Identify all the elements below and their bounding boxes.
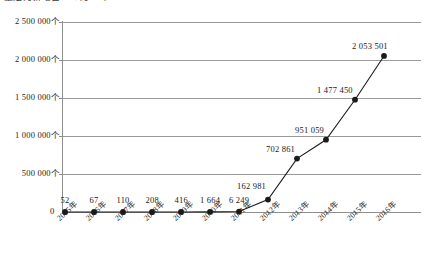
data-point-label: 702 861 [266,145,295,154]
data-point-marker [265,197,271,203]
data-point-marker [149,209,155,215]
data-point-label: 6 249 [229,196,249,205]
data-point-label: 208 [146,196,159,205]
data-point-marker [91,209,97,215]
data-point-marker [120,209,126,215]
data-point-marker [381,53,387,59]
data-point-marker [236,209,242,215]
data-point-label: 52 [61,196,70,205]
data-point-marker [207,209,213,215]
data-point-label: 1 477 450 [317,86,353,95]
data-point-label: 951 059 [295,126,324,135]
data-point-label: 416 [175,196,188,205]
data-point-label: 67 [90,196,99,205]
data-point-marker [352,97,358,103]
data-point-label: 1 664 [200,196,220,205]
data-point-marker [294,156,300,162]
data-point-label: 2 053 501 [352,42,388,51]
data-point-label: 110 [117,196,130,205]
data-point-marker [323,137,329,143]
line-chart: 0500 000个1 000 000个1 500 000个2 000 000个2… [0,0,431,266]
data-point-marker [178,209,184,215]
series-line [0,0,431,266]
data-point-marker [62,209,68,215]
data-point-label: 162 981 [237,182,266,191]
series-polyline [65,56,384,212]
series-markers [62,53,387,215]
